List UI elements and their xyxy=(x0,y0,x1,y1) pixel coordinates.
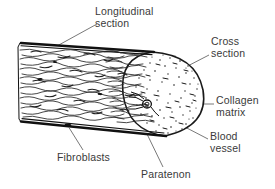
label-cross-section-line2: section xyxy=(211,48,245,60)
label-collagen-matrix-line2: matrix xyxy=(216,107,259,119)
label-paratenon: Paratenon xyxy=(141,169,191,181)
label-collagen-matrix-line1: Collagen xyxy=(216,94,259,106)
label-blood-vessel: Blood vessel xyxy=(210,131,241,154)
label-cross-section-line1: Cross xyxy=(211,35,239,47)
label-cross-section: Cross section xyxy=(211,36,245,59)
tendon-diagram-figure: Longitudinal section Cross section Colla… xyxy=(0,0,275,189)
label-blood-vessel-line2: vessel xyxy=(210,143,241,155)
label-blood-vessel-line1: Blood xyxy=(210,130,238,142)
label-longitudinal-section-line2: section xyxy=(95,18,153,30)
leader-paratenon xyxy=(147,134,163,167)
label-collagen-matrix: Collagen matrix xyxy=(216,95,259,118)
leader-fibroblasts xyxy=(68,126,83,150)
leader-longitudinal-section xyxy=(57,24,97,46)
label-paratenon-line1: Paratenon xyxy=(141,168,191,180)
label-longitudinal-section: Longitudinal section xyxy=(95,6,153,29)
label-longitudinal-section-line1: Longitudinal xyxy=(95,5,153,17)
label-fibroblasts-line1: Fibroblasts xyxy=(57,151,110,163)
label-fibroblasts: Fibroblasts xyxy=(57,152,110,164)
